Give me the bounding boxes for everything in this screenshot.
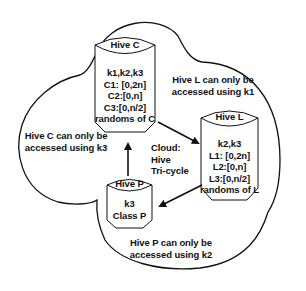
hive-c-title: Hive C [95,39,155,51]
hive-tricycle-diagram: Hive C k1,k2,k3 C1: [0,2n] C2:[0,n] C3:[… [0,0,306,291]
note-line: Hive C can only be [23,130,109,142]
note-line: Hive L can only be [168,74,258,86]
hive-p-title: Hive P [107,178,152,190]
hive-p-line: Class P [105,210,154,222]
cloud-label-line: Cloud: [151,142,189,154]
hive-p-access-note: Hive P can only be accessed using k2 [128,237,214,260]
hive-p-line: k3 [105,198,154,210]
note-line: accessed using k2 [128,249,214,261]
hive-c-access-note: Hive C can only be accessed using k3 [23,130,109,153]
hive-l-access-note: Hive L can only be accessed using k1 [168,74,258,97]
note-line: accessed using k3 [23,142,109,154]
cloud-label: Cloud: Hive Tri-cycle [151,142,189,177]
hive-p-contents: k3 Class P [105,198,154,221]
hive-c-line: C3:[0,n/2] [93,102,157,114]
hive-c-line: C1: [0,2n] [93,79,157,91]
cloud-label-line: Hive [151,154,189,166]
hive-l-line: L3:[0,n/2] [199,173,260,185]
hive-c-line: C2:[0,n] [93,90,157,102]
arrow-c-to-l [158,122,198,143]
hive-l-line: L2:[0,n] [199,161,260,173]
hive-l-line: k2,k3 [199,138,260,150]
hive-l-title: Hive L [201,111,258,123]
arrow-l-to-p [160,185,202,206]
note-line: accessed using k1 [168,86,258,98]
hive-l-line: randoms of L [199,184,260,196]
hive-c-line: randoms of C [93,113,157,125]
hive-l-contents: k2,k3 L1: [0,2n] L2:[0,n] L3:[0,n/2] ran… [199,138,260,196]
cloud-label-line: Tri-cycle [151,165,189,177]
hive-l-line: L1: [0,2n] [199,150,260,162]
note-line: Hive P can only be [128,237,214,249]
hive-c-contents: k1,k2,k3 C1: [0,2n] C2:[0,n] C3:[0,n/2] … [93,67,157,125]
hive-c-line: k1,k2,k3 [93,67,157,79]
